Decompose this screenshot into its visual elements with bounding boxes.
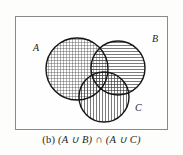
venn-diagram-svg — [0, 0, 183, 155]
figure-caption: (b) (A ∪ B) ∩ (A ∪ C) — [0, 133, 183, 145]
caption-part-label: (b) — [42, 134, 55, 145]
caption-expression: (A ∪ B) ∩ (A ∪ C) — [58, 134, 141, 145]
venn-figure: A B C (b) (A ∪ B) ∩ (A ∪ C) — [0, 0, 183, 155]
set-label-a: A — [33, 43, 39, 53]
set-label-b: B — [152, 34, 158, 44]
set-label-c: C — [135, 103, 142, 113]
